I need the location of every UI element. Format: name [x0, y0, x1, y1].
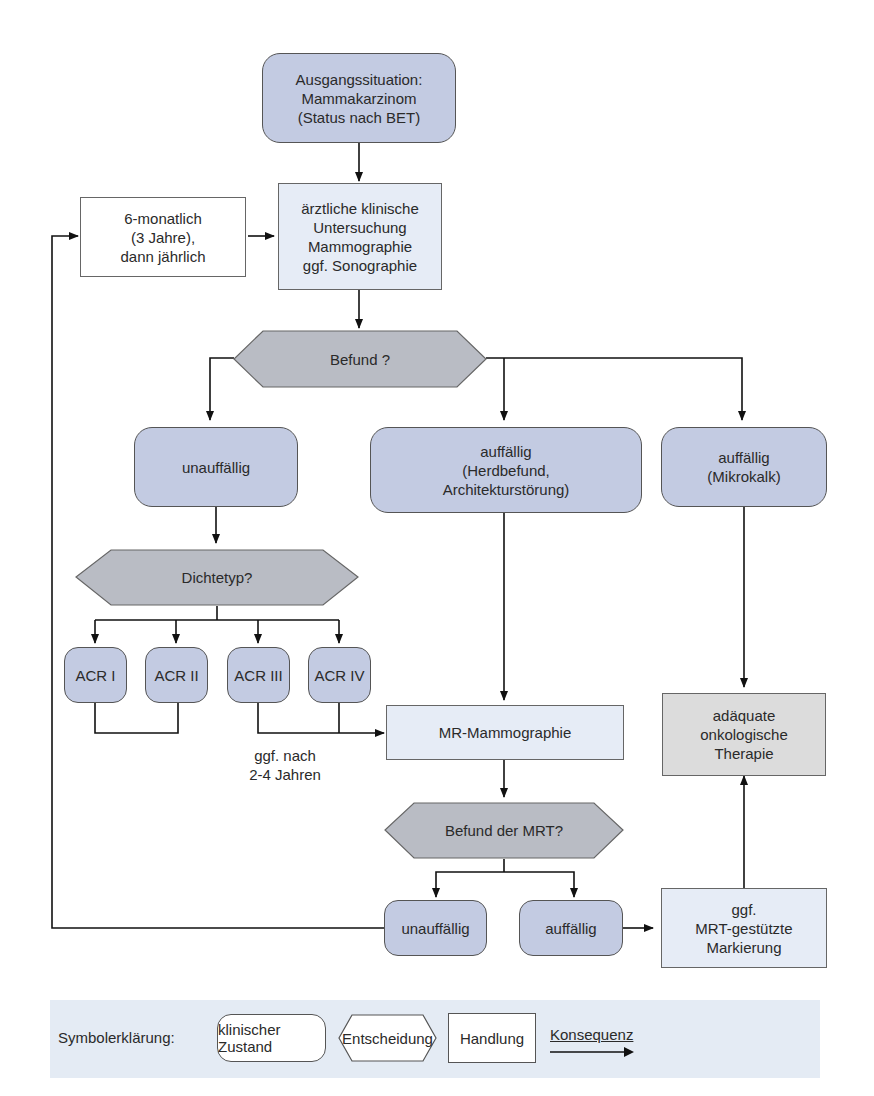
acr-2-label: ACR II: [154, 666, 198, 685]
mrt-auffaellig-node: auffällig: [519, 900, 623, 956]
acr-3-node: ACR III: [227, 647, 290, 703]
legend-title: Symbolerklärung:: [58, 1029, 175, 1046]
markierung-label: ggf. MRT-gestützte Markierung: [695, 900, 792, 957]
herdbefund-label: auffällig (Herdbefund, Architekturstörun…: [443, 442, 570, 499]
herdbefund-state-node: auffällig (Herdbefund, Architekturstörun…: [370, 427, 642, 513]
legend-decision-label: Entscheidung: [342, 1030, 433, 1047]
legend-state-label: klinischer Zustand: [218, 1021, 325, 1055]
markierung-node: ggf. MRT-gestützte Markierung: [661, 888, 827, 968]
legend-consequence: Konsequenz: [550, 1020, 632, 1060]
acr-4-label: ACR IV: [314, 666, 364, 685]
acr-note-label: ggf. nach 2-4 Jahren: [240, 746, 330, 784]
legend-action-symbol: Handlung: [448, 1013, 536, 1063]
mr-label: MR-Mammographie: [439, 723, 572, 742]
mrt-unauffaellig-label: unauffällig: [401, 919, 469, 938]
legend-consequence-label: Konsequenz: [550, 1026, 633, 1043]
mikrokalk-state-node: auffällig (Mikrokalk): [661, 427, 827, 507]
acr-4-node: ACR IV: [308, 647, 371, 703]
interval-node: 6-monatlich (3 Jahre), dann jährlich: [80, 197, 246, 277]
mrt-auffaellig-label: auffällig: [545, 919, 596, 938]
mikrokalk-label: auffällig (Mikrokalk): [707, 448, 780, 486]
dichtetyp-label: Dichtetyp?: [182, 568, 253, 587]
legend-state-symbol: klinischer Zustand: [217, 1014, 326, 1062]
acr-2-node: ACR II: [145, 647, 208, 703]
mrt-unauffaellig-node: unauffällig: [384, 900, 487, 956]
therapie-node: adäquate onkologische Therapie: [662, 693, 826, 776]
acr-1-label: ACR I: [75, 666, 115, 685]
legend-panel: Symbolerklärung: klinischer Zustand Ents…: [50, 1000, 820, 1078]
arrow-right-icon: [550, 1046, 634, 1058]
dichtetyp-decision-node: Dichtetyp?: [75, 549, 359, 606]
befund-label: Befund ?: [330, 350, 390, 369]
start-label: Ausgangssituation: Mammakarzinom (Status…: [296, 70, 423, 127]
befund-decision-node: Befund ?: [233, 330, 487, 388]
unauffaellig-state-node: unauffällig: [134, 427, 298, 507]
befund-mrt-decision-node: Befund der MRT?: [384, 802, 624, 859]
exam-action-node: ärztliche klinische Untersuchung Mammogr…: [278, 183, 442, 290]
befund-mrt-label: Befund der MRT?: [445, 821, 563, 840]
exam-label: ärztliche klinische Untersuchung Mammogr…: [301, 199, 419, 275]
unauffaellig-label: unauffällig: [182, 458, 250, 477]
therapie-label: adäquate onkologische Therapie: [700, 706, 788, 763]
legend-action-label: Handlung: [460, 1030, 524, 1047]
acr-3-label: ACR III: [234, 666, 282, 685]
acr-1-node: ACR I: [64, 647, 127, 703]
start-state-node: Ausgangssituation: Mammakarzinom (Status…: [262, 53, 456, 143]
interval-label: 6-monatlich (3 Jahre), dann jährlich: [120, 209, 205, 266]
legend-decision-symbol: Entscheidung: [338, 1014, 437, 1062]
mr-mammographie-node: MR-Mammographie: [386, 705, 624, 760]
